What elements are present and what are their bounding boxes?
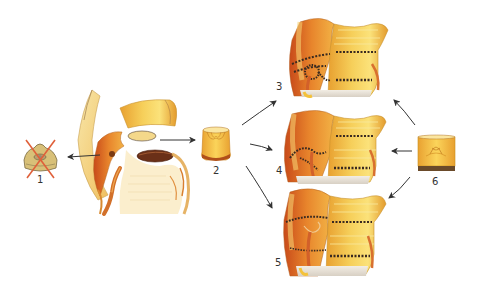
label-3: 3 xyxy=(276,82,282,92)
label-5: 5 xyxy=(275,258,281,268)
label-6: 6 xyxy=(432,177,438,187)
label-1: 1 xyxy=(37,175,43,185)
excised-valve xyxy=(24,144,57,171)
graft-cylinder-2 xyxy=(202,127,231,161)
arrow-6-to-5 xyxy=(389,177,410,198)
label-2: 2 xyxy=(213,166,219,176)
arrow-6-to-3 xyxy=(394,100,415,125)
arrow-2-to-4 xyxy=(250,144,272,150)
arrow-2-to-5 xyxy=(246,166,272,208)
surgical-illustration xyxy=(0,0,478,288)
repair-panel-5 xyxy=(284,189,386,276)
repair-panel-3 xyxy=(289,18,388,97)
arrow-2-to-3 xyxy=(242,101,276,125)
graft-cylinder-6 xyxy=(418,135,455,171)
label-4: 4 xyxy=(276,166,282,176)
figure-canvas: 1 2 3 4 5 6 xyxy=(0,0,478,288)
repair-panel-4 xyxy=(284,110,386,184)
aortic-root-anatomy xyxy=(78,90,189,214)
